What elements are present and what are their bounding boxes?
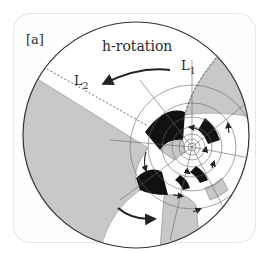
line-label-l1: L1 [181, 58, 195, 76]
diagram-title: h-rotation [102, 38, 172, 54]
panel-label: [a] [26, 32, 44, 47]
line-label-l2: L2 [74, 73, 88, 91]
